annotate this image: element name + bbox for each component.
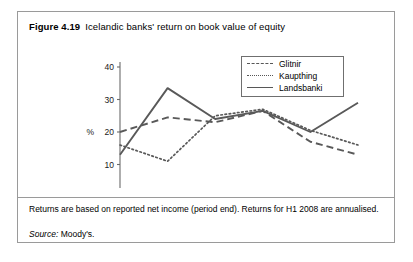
- y-axis-tick-label: 10: [105, 160, 115, 170]
- figure-title: Figure 4.19Icelandic banks' return on bo…: [29, 21, 285, 32]
- legend-label: Glitnir: [279, 59, 301, 69]
- y-axis-tick-label: 20: [105, 127, 115, 137]
- solid-line-swatch-icon: [247, 83, 273, 93]
- figure-source: Source: Moody's.: [29, 228, 94, 240]
- chart-legend: Glitnir Kaupthing Landsbanki: [241, 56, 344, 97]
- legend-item-glitnir: Glitnir: [247, 58, 301, 70]
- figure-title-text: Icelandic banks' return on book value of…: [85, 21, 285, 32]
- figure-number: Figure 4.19: [29, 21, 80, 32]
- legend-item-landsbanki: Landsbanki: [247, 82, 322, 94]
- dashed-line-swatch-icon: [247, 59, 273, 69]
- series-line-glitnir: [120, 111, 358, 155]
- dotted-line-swatch-icon: [247, 71, 273, 81]
- y-axis-unit-label: %: [86, 127, 94, 137]
- legend-label: Landsbanki: [279, 83, 322, 93]
- y-axis-tick-label: 30: [105, 95, 115, 105]
- y-axis-tick-label: 40: [105, 62, 115, 72]
- figure-footnote: Returns are based on reported net income…: [29, 203, 381, 216]
- figure-card: Figure 4.19Icelandic banks' return on bo…: [17, 11, 395, 243]
- source-value: Moody's.: [61, 229, 95, 239]
- legend-item-kaupthing: Kaupthing: [247, 70, 317, 82]
- legend-label: Kaupthing: [279, 71, 317, 81]
- source-keyword: Source:: [29, 229, 58, 239]
- card-divider: [18, 197, 394, 198]
